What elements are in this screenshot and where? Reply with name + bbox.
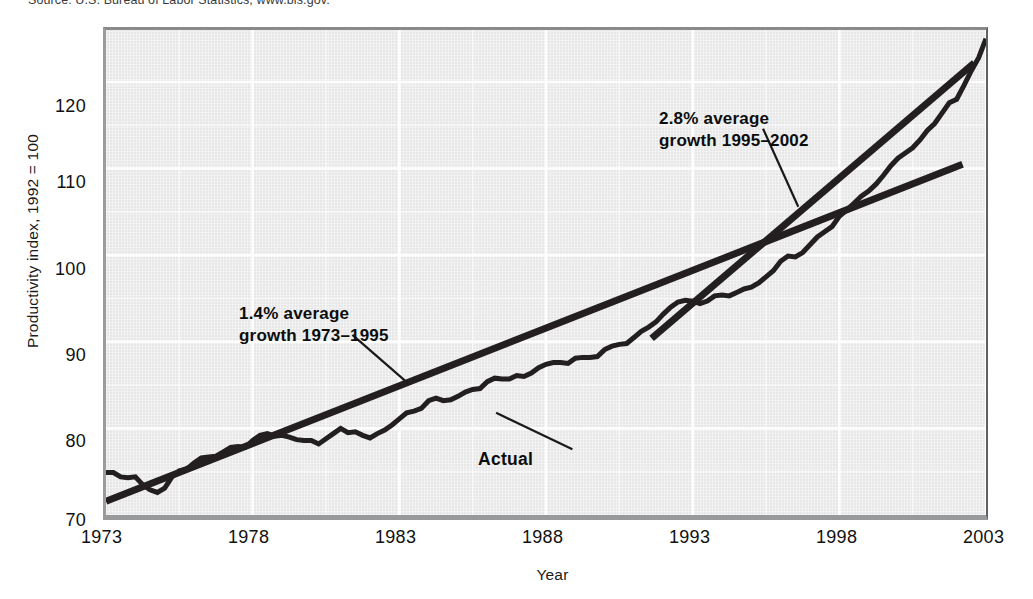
x-tick-1983: 1983 [375,527,416,548]
x-tick-1988: 1988 [522,527,563,548]
y-tick-80: 80 [20,431,86,452]
y-tick-90: 90 [20,345,86,366]
annotation-slow-growth-line2: growth 1973–1995 [239,325,389,347]
plot-area: 1.4% average growth 1973–1995 2.8% avera… [103,27,988,520]
y-tick-120: 120 [20,96,86,117]
plot-canvas [106,30,986,515]
x-tick-1973: 1973 [81,527,122,548]
x-axis-label: Year [0,566,1033,584]
x-tick-1993: 1993 [669,527,710,548]
x-tick-1978: 1978 [228,527,269,548]
x-axis-label-text: Year [536,566,568,583]
source-note: Source: U.S. Bureau of Labor Statistics,… [28,0,330,7]
productivity-chart-figure: Source: U.S. Bureau of Labor Statistics,… [0,0,1033,599]
y-tick-70: 70 [20,510,86,531]
y-tick-100: 100 [20,259,86,280]
annotation-actual: Actual [478,449,533,470]
annotation-slow-growth: 1.4% average growth 1973–1995 [239,303,389,348]
gridlines [106,30,986,515]
annotation-slow-growth-line1: 1.4% average [239,303,389,325]
annotation-leader-lines [352,129,798,449]
x-tick-2003: 2003 [963,527,1004,548]
annotation-fast-growth-line1: 2.8% average [659,108,809,130]
x-tick-1998: 1998 [816,527,857,548]
annotation-fast-growth-line2: growth 1995–2002 [659,130,809,152]
y-tick-110: 110 [20,172,86,193]
annotation-fast-growth: 2.8% average growth 1995–2002 [659,108,809,153]
